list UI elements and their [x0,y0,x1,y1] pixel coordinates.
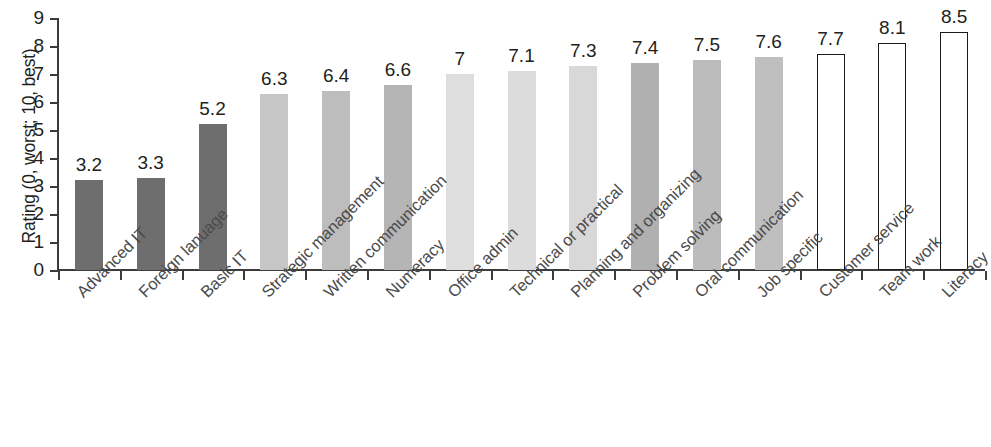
x-tick-mark [58,271,60,280]
y-tick-8: 8 [0,46,58,48]
y-tick-0: 0 [0,270,58,272]
bar-value-label: 7.6 [743,32,795,51]
bar-value-label: 3.3 [125,153,177,172]
bar-value-label: 8.1 [866,18,918,37]
y-tick-label: 1 [22,232,44,251]
x-tick-mark [676,271,678,280]
y-tick-9: 9 [0,18,58,20]
bar-value-label: 7.1 [496,46,548,65]
bar-value-label: 7 [434,49,486,68]
y-tick-6: 6 [0,102,58,104]
x-tick-mark [923,271,925,280]
y-tick-mark [50,270,58,272]
x-tick-mark [491,271,493,280]
bar-value-label: 6.4 [310,66,362,85]
bar-value-label: 7.7 [805,29,857,48]
bar-value-label: 8.5 [928,7,980,26]
y-tick-mark [50,102,58,104]
y-tick-label: 7 [22,64,44,83]
y-tick-label: 8 [22,36,44,55]
y-tick-mark [50,74,58,76]
y-tick-2: 2 [0,214,58,216]
y-tick-7: 7 [0,74,58,76]
y-tick-label: 4 [22,148,44,167]
y-tick-label: 2 [22,204,44,223]
y-tick-mark [50,130,58,132]
bar-value-label: 7.5 [681,35,733,54]
bar [446,74,474,270]
x-tick-mark [120,271,122,280]
y-tick-mark [50,214,58,216]
x-tick-mark [429,271,431,280]
bar-value-label: 6.3 [248,69,300,88]
y-tick-mark [50,18,58,20]
x-tick-mark [800,271,802,280]
x-tick-mark [367,271,369,280]
x-tick-mark [182,271,184,280]
y-tick-3: 3 [0,186,58,188]
bar [75,180,103,270]
y-tick-mark [50,158,58,160]
x-tick-mark [552,271,554,280]
y-tick-1: 1 [0,242,58,244]
x-tick-mark [614,271,616,280]
y-tick-mark [50,242,58,244]
bar [940,32,968,270]
bar [260,94,288,270]
x-tick-mark [738,271,740,280]
y-axis-line [57,18,59,271]
x-tick-mark [985,271,987,280]
x-tick-mark [861,271,863,280]
y-tick-label: 5 [22,120,44,139]
bar-value-label: 3.2 [63,155,115,174]
y-tick-5: 5 [0,130,58,132]
y-tick-mark [50,46,58,48]
x-tick-mark [243,271,245,280]
bar-value-label: 5.2 [187,99,239,118]
bar-value-label: 7.3 [557,41,609,60]
bar [199,124,227,270]
y-tick-label: 0 [22,260,44,279]
y-tick-label: 9 [22,8,44,27]
y-tick-label: 6 [22,92,44,111]
bar-value-label: 7.4 [619,38,671,57]
y-tick-4: 4 [0,158,58,160]
bar-value-label: 6.6 [372,60,424,79]
y-tick-mark [50,186,58,188]
x-tick-mark [305,271,307,280]
bar [137,178,165,270]
y-tick-label: 3 [22,176,44,195]
